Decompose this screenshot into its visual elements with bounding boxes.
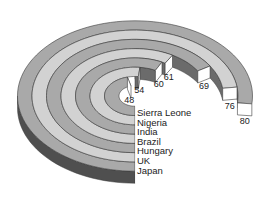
value-label: 61	[164, 72, 174, 82]
radial-bar-chart: 80766961605448 Sierra LeoneNigeriaIndiaB…	[0, 0, 265, 198]
category-labels: Sierra LeoneNigeriaIndiaBrazilHungaryUKJ…	[137, 107, 191, 176]
value-label: 60	[154, 79, 164, 89]
start-edge	[135, 104, 136, 183]
category-label: Japan	[137, 165, 163, 176]
chart-rings	[18, 21, 253, 183]
value-label: 54	[134, 85, 144, 95]
ring-end-cap	[237, 103, 251, 116]
value-label: 80	[240, 116, 250, 126]
value-label: 69	[199, 81, 209, 91]
value-label: 76	[225, 101, 235, 111]
value-label: 48	[124, 95, 134, 105]
ring-end-cap	[223, 87, 237, 100]
